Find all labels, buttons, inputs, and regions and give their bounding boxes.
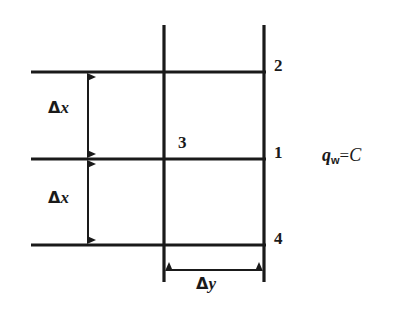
dimension-variable: x <box>60 188 69 207</box>
dimension-label-dy: Δy <box>196 275 216 292</box>
node-label-1: 1 <box>274 144 283 161</box>
dimension-variable: x <box>60 98 69 117</box>
finite-difference-grid-figure: 2 1 4 3 Δx Δx Δy qw=C <box>0 0 396 309</box>
delta-glyph: Δ <box>48 98 60 117</box>
dimension-variable: y <box>208 274 216 293</box>
node-label-4: 4 <box>274 230 283 247</box>
dimension-label-dx-upper: Δx <box>48 99 69 116</box>
delta-glyph: Δ <box>48 188 60 207</box>
equals-sign: = <box>340 146 350 165</box>
constant-symbol: C <box>349 145 361 165</box>
delta-glyph: Δ <box>196 274 208 293</box>
node-label-2: 2 <box>274 57 283 74</box>
node-label-3: 3 <box>178 134 187 151</box>
boundary-condition-label: qw=C <box>322 146 361 166</box>
heat-flux-symbol: q <box>322 145 331 165</box>
heat-flux-subscript: w <box>331 154 340 166</box>
dimension-label-dx-lower: Δx <box>48 189 69 206</box>
